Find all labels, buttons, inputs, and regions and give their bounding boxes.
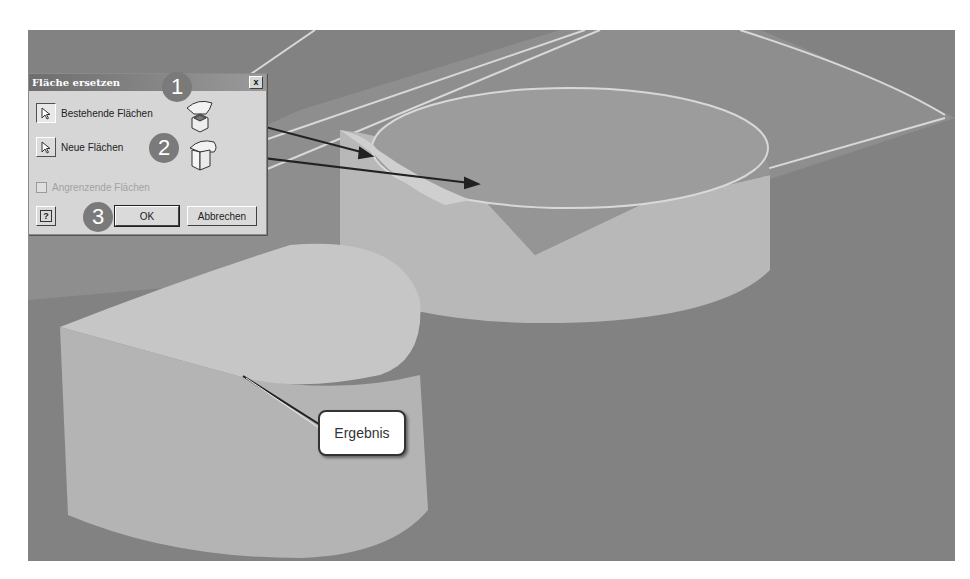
help-icon: ? xyxy=(40,210,52,222)
new-face-icon xyxy=(184,138,226,173)
adjacent-faces-checkbox[interactable] xyxy=(36,182,47,193)
step-3-badge: 3 xyxy=(83,202,113,232)
adjacent-faces-label: Angrenzende Flächen xyxy=(52,182,150,193)
result-callout: Ergebnis xyxy=(318,410,406,456)
new-faces-select-button[interactable] xyxy=(36,137,56,157)
replace-face-dialog: Fläche ersetzen x Bestehende Flächen Neu… xyxy=(28,73,267,235)
cancel-button[interactable]: Abbrechen xyxy=(187,206,257,226)
dialog-title: Fläche ersetzen xyxy=(32,77,120,88)
existing-faces-row: Bestehende Flächen xyxy=(36,103,153,123)
cursor-arrow-icon xyxy=(40,141,52,154)
existing-faces-label: Bestehende Flächen xyxy=(61,108,153,119)
cursor-arrow-icon xyxy=(40,107,52,120)
existing-faces-select-button[interactable] xyxy=(36,103,56,123)
dialog-titlebar[interactable]: Fläche ersetzen x xyxy=(29,74,266,91)
new-faces-label: Neue Flächen xyxy=(61,142,123,153)
new-faces-row: Neue Flächen xyxy=(36,137,123,157)
help-button[interactable]: ? xyxy=(36,206,56,226)
adjacent-faces-row: Angrenzende Flächen xyxy=(36,182,150,193)
step-1-badge: 1 xyxy=(162,72,192,102)
ok-button[interactable]: OK xyxy=(115,206,179,226)
close-button[interactable]: x xyxy=(249,76,263,89)
existing-face-icon xyxy=(184,98,226,133)
step-2-badge: 2 xyxy=(149,133,179,163)
